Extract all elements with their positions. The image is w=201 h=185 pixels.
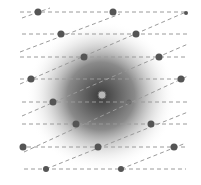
lattice-dot (133, 31, 140, 38)
lattice-dot (127, 100, 132, 105)
lattice-dot (156, 54, 163, 61)
lattice-dot (95, 144, 102, 151)
lattice-dot (43, 166, 49, 172)
lattice-dot (178, 76, 185, 83)
lattice-dot (81, 54, 88, 61)
center-dot (98, 91, 106, 99)
lattice-dot (28, 76, 35, 83)
lattice-dot (58, 31, 65, 38)
lattice-diagram (0, 0, 201, 185)
lattice-dot (148, 121, 155, 128)
lattice-dot (184, 11, 188, 15)
lattice-dot (73, 121, 80, 128)
lattice-dot (20, 144, 27, 151)
lattice-dot (118, 166, 124, 172)
lattice-dot (171, 144, 178, 151)
lattice-dot (50, 99, 57, 106)
lattice-dot (35, 9, 42, 16)
lattice-dot (110, 9, 117, 16)
